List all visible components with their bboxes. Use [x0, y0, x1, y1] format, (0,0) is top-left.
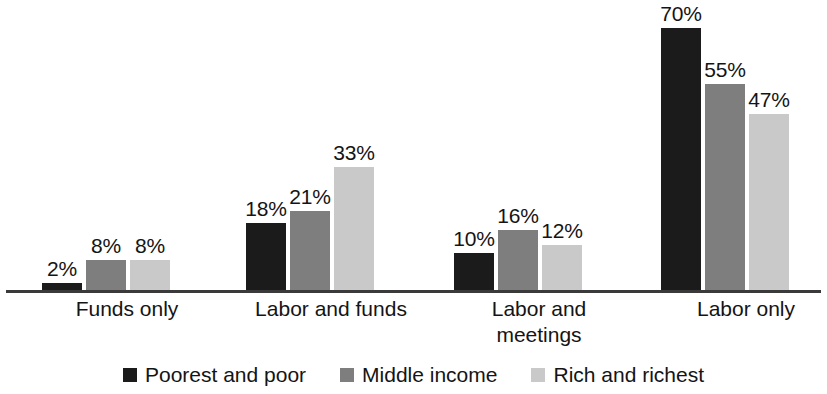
category-axis-labels: Funds only Labor and funds Labor and mee… — [0, 296, 827, 352]
category-label-labor-only: Labor only — [646, 296, 827, 322]
legend: Poorest and poor Middle income Rich and … — [0, 360, 827, 390]
bar-value-label: 10% — [442, 228, 506, 249]
bar-wrap: 12% — [542, 245, 582, 290]
bar-value-label: 2% — [30, 258, 94, 279]
bar-poorest-and-poor[interactable] — [42, 283, 82, 290]
bar-group-labor-and-meetings: 10% 16% 12% — [454, 4, 624, 290]
bar-poorest-and-poor[interactable] — [246, 223, 286, 290]
legend-item-rich-and-richest[interactable]: Rich and richest — [531, 364, 704, 386]
bar-rich-and-richest[interactable] — [334, 167, 374, 290]
category-label-labor-and-meetings: Labor and meetings — [439, 296, 639, 348]
bar-wrap: 18% — [246, 223, 286, 290]
legend-label: Middle income — [362, 364, 497, 386]
bar-wrap: 47% — [749, 114, 789, 290]
legend-label: Poorest and poor — [145, 364, 306, 386]
bar-value-label: 55% — [693, 59, 757, 80]
bar-wrap: 8% — [86, 260, 126, 290]
bar-wrap: 2% — [42, 283, 82, 290]
bar-wrap: 10% — [454, 253, 494, 290]
category-label-line: meetings — [439, 322, 639, 348]
bar-value-label: 21% — [278, 186, 342, 207]
bar-poorest-and-poor[interactable] — [454, 253, 494, 290]
bar-group-funds-only: 2% 8% 8% — [42, 4, 212, 290]
bar-chart: 2% 8% 8% 18% 21% 33% — [0, 0, 827, 394]
legend-swatch-icon — [531, 368, 545, 382]
x-axis-baseline — [6, 290, 821, 293]
bar-value-label: 33% — [322, 142, 386, 163]
legend-item-poorest-and-poor[interactable]: Poorest and poor — [123, 364, 306, 386]
bar-value-label: 47% — [737, 89, 801, 110]
bar-group-labor-only: 70% 55% 47% — [661, 4, 827, 290]
bar-middle-income[interactable] — [705, 84, 745, 290]
bar-middle-income[interactable] — [86, 260, 126, 290]
legend-swatch-icon — [340, 368, 354, 382]
bar-value-label: 8% — [118, 235, 182, 256]
category-label-line: Labor only — [646, 296, 827, 322]
bar-rich-and-richest[interactable] — [749, 114, 789, 290]
legend-label: Rich and richest — [553, 364, 704, 386]
bar-middle-income[interactable] — [290, 211, 330, 290]
legend-swatch-icon — [123, 368, 137, 382]
category-label-labor-and-funds: Labor and funds — [231, 296, 431, 322]
category-label-line: Labor and funds — [231, 296, 431, 322]
bar-rich-and-richest[interactable] — [130, 260, 170, 290]
legend-item-middle-income[interactable]: Middle income — [340, 364, 497, 386]
bar-value-label: 70% — [649, 3, 713, 24]
bar-rich-and-richest[interactable] — [542, 245, 582, 290]
bar-group-labor-and-funds: 18% 21% 33% — [246, 4, 416, 290]
bar-wrap: 33% — [334, 167, 374, 290]
category-label-funds-only: Funds only — [27, 296, 227, 322]
bar-wrap: 21% — [290, 211, 330, 290]
bar-wrap: 8% — [130, 260, 170, 290]
bar-wrap: 55% — [705, 84, 745, 290]
category-label-line: Funds only — [27, 296, 227, 322]
bar-value-label: 12% — [530, 220, 594, 241]
category-label-line: Labor and — [439, 296, 639, 322]
plot-area: 2% 8% 8% 18% 21% 33% — [0, 0, 827, 293]
